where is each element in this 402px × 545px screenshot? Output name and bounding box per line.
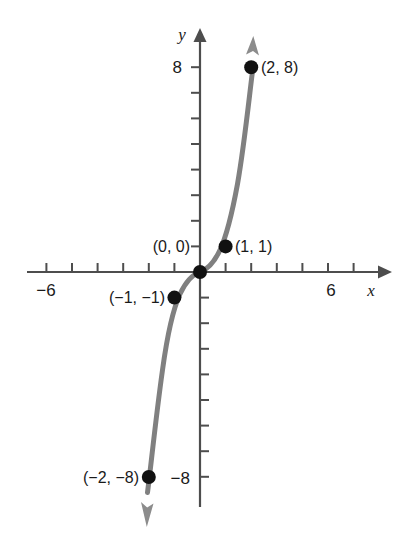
point-marker-neg1-neg1[interactable]: [167, 291, 181, 305]
cubic-function-graph-figure: y x 8 −8 −6 6 (−2, −8) (−1, −1) (0, 0) (…: [0, 0, 402, 545]
point-label-neg1-neg1: (−1, −1): [109, 289, 165, 306]
point-marker-1-1[interactable]: [219, 239, 233, 253]
point-marker-0-0[interactable]: [193, 265, 207, 279]
labels-group: y x 8 −8 −6 6 (−2, −8) (−1, −1) (0, 0) (…: [36, 25, 375, 488]
point-marker-neg2-neg8[interactable]: [142, 470, 156, 484]
y-axis-label: y: [176, 25, 186, 44]
x-axis-label: x: [366, 281, 375, 300]
y-axis-tick-label-neg8: −8: [171, 469, 190, 488]
x-axis-tick-label-6: 6: [326, 281, 335, 300]
y-axis-ticks-positive: [191, 67, 200, 246]
point-marker-2-8[interactable]: [244, 60, 258, 74]
y-axis-tick-label-8: 8: [173, 58, 182, 77]
point-label-neg2-neg8: (−2, −8): [83, 469, 139, 486]
point-label-0-0: (0, 0): [153, 238, 190, 255]
x-axis-tick-label-neg6: −6: [36, 281, 55, 300]
y-axis-ticks-negative: [200, 298, 209, 477]
y-axis-arrow-icon: [194, 28, 207, 42]
curve-arrow-down-icon: [141, 502, 154, 527]
coordinate-plane-svg: y x 8 −8 −6 6 (−2, −8) (−1, −1) (0, 0) (…: [0, 0, 402, 545]
x-axis-arrow-icon: [378, 266, 392, 279]
curve-arrow-up-icon: [246, 36, 259, 56]
point-label-2-8: (2, 8): [261, 59, 298, 76]
point-label-1-1: (1, 1): [235, 238, 272, 255]
